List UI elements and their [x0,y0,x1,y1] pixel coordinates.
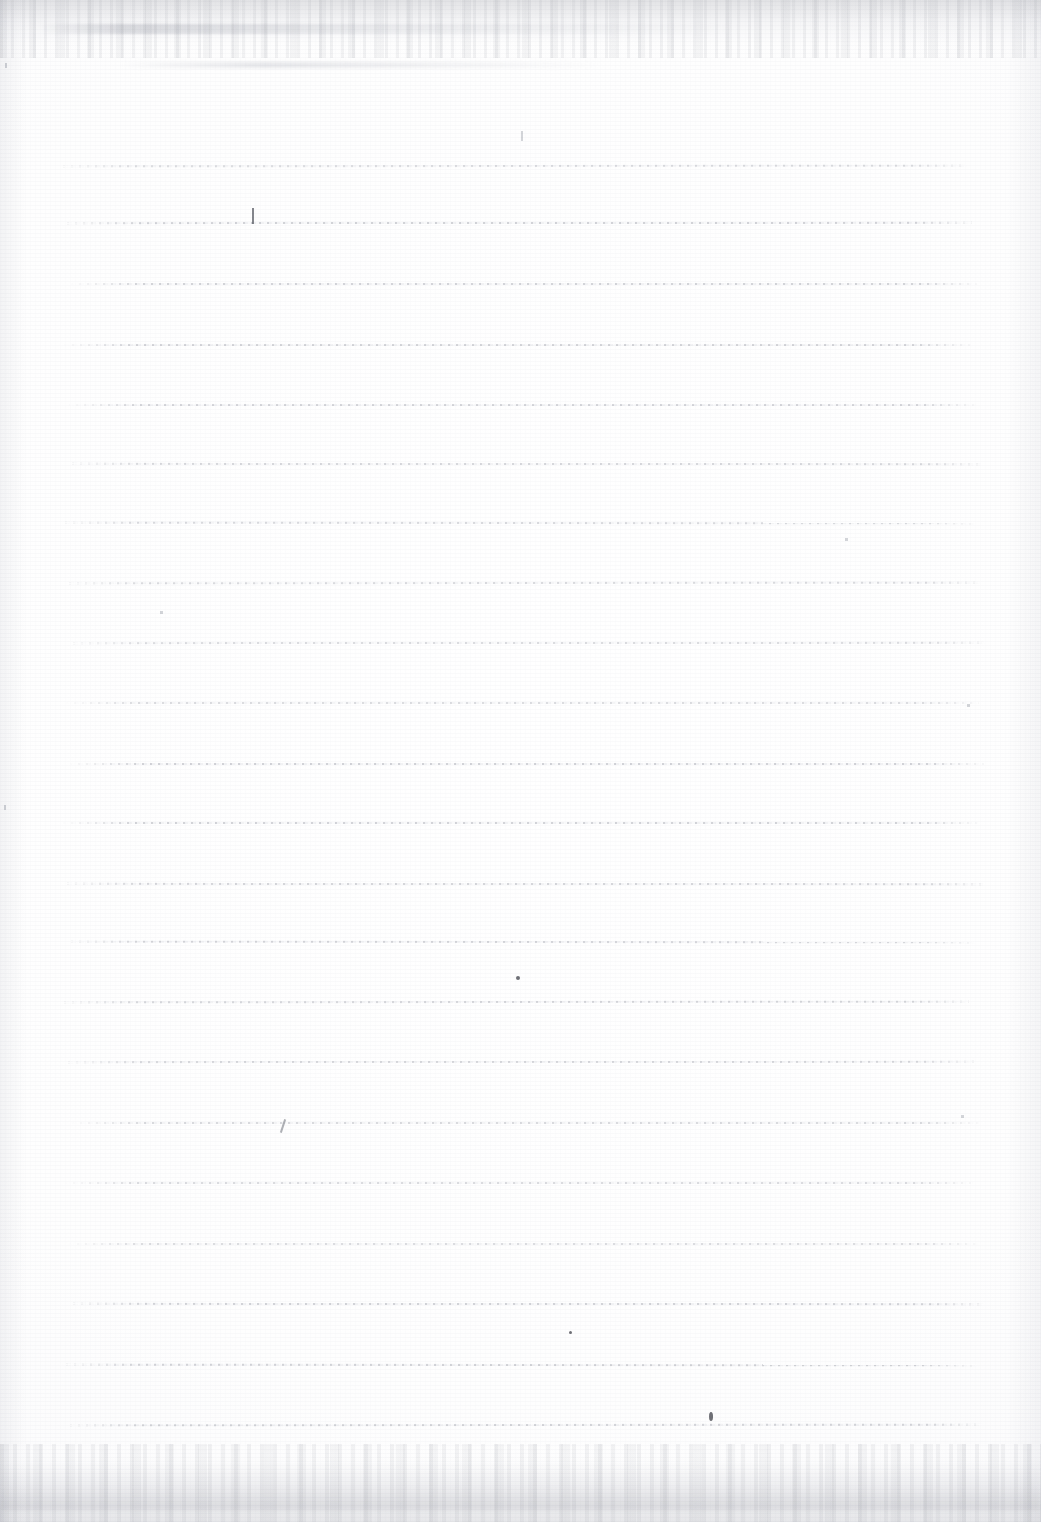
ruled-line [67,883,983,885]
ruled-line [68,404,976,406]
scan-edge-noise-top [0,0,1041,58]
ruled-line [68,1061,974,1063]
ruled-line [65,522,975,525]
ruled-line [64,1001,969,1004]
ruled-line [70,1424,982,1427]
scan-edge-noise-bottom [0,1444,1041,1522]
ruled-line [66,702,979,704]
ruled-line [71,941,975,944]
ruled-line [69,582,980,585]
scan-edge-noise-right [1007,0,1041,1522]
ruled-line [70,763,984,765]
ruled-line [63,822,978,824]
ruled-line [66,1364,977,1367]
ruled-line [64,344,971,346]
ruled-line [65,1182,973,1184]
ruled-line [73,1303,983,1305]
scan-edge-noise-left [0,0,26,1522]
scanned-page [0,0,1041,1522]
ruled-line [72,463,981,465]
ruled-line [73,642,985,644]
ruled-line [72,1122,979,1124]
ruled-line [71,283,977,285]
ruled-line [69,1243,978,1245]
ruled-line [63,165,967,168]
ruled-line [67,222,972,224]
ruled-lines-group [0,0,1041,1522]
